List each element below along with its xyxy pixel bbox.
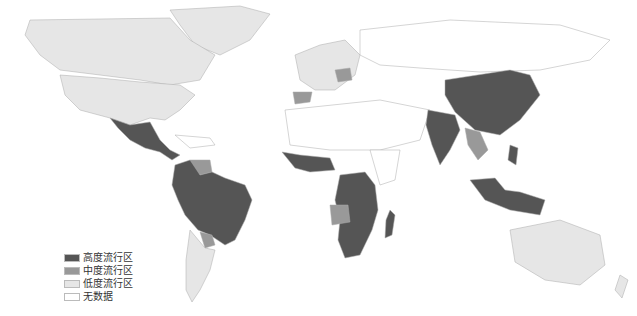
region-mainland-southeast-asia bbox=[465, 128, 488, 160]
legend-item-high: 高度流行区 bbox=[64, 252, 133, 264]
legend-label: 无数据 bbox=[83, 291, 113, 303]
legend-label: 中度流行区 bbox=[83, 265, 133, 277]
region-australia bbox=[510, 220, 605, 285]
region-philippines bbox=[508, 145, 518, 165]
region-north-africa-middle-east bbox=[285, 100, 430, 150]
region-east-africa bbox=[370, 150, 400, 185]
swatch-high bbox=[64, 254, 80, 262]
legend-label: 高度流行区 bbox=[83, 252, 133, 264]
region-south-america-high bbox=[172, 160, 252, 245]
region-west-africa bbox=[282, 152, 335, 172]
swatch-none bbox=[64, 293, 80, 301]
region-madagascar bbox=[385, 210, 395, 238]
region-new-zealand bbox=[615, 275, 628, 298]
legend-label: 低度流行区 bbox=[83, 278, 133, 290]
region-india bbox=[426, 110, 460, 165]
region-angola bbox=[330, 205, 350, 225]
region-caribbean bbox=[175, 135, 215, 148]
swatch-low bbox=[64, 280, 80, 288]
legend-item-none: 无数据 bbox=[64, 291, 133, 303]
region-western-europe bbox=[295, 40, 360, 90]
legend-item-medium: 中度流行区 bbox=[64, 265, 133, 277]
region-china bbox=[445, 70, 540, 135]
region-spain bbox=[293, 92, 312, 104]
legend: 高度流行区 中度流行区 低度流行区 无数据 bbox=[64, 252, 133, 304]
region-mexico bbox=[110, 118, 180, 160]
legend-item-low: 低度流行区 bbox=[64, 278, 133, 290]
region-poland bbox=[335, 68, 352, 82]
swatch-medium bbox=[64, 267, 80, 275]
region-russia bbox=[360, 20, 610, 72]
region-southeast-asia-islands bbox=[470, 178, 545, 215]
